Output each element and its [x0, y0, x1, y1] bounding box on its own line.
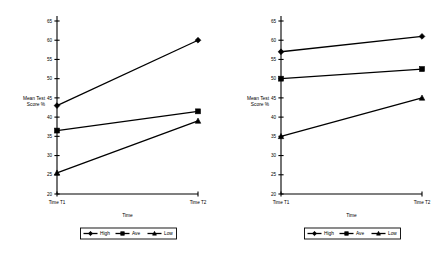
series-ave-marker-square: [279, 76, 284, 81]
y-axis-title-line2: Score %: [27, 102, 46, 107]
series-line-low: [57, 121, 198, 173]
y-axis-tick-label: 50: [47, 76, 53, 81]
two-panel-line-chart-figure: 20253035404550556065Time T1Time T2Mean T…: [0, 0, 448, 259]
y-axis-tick-label: 65: [271, 19, 277, 24]
series-high-marker-diamond: [419, 33, 425, 39]
y-axis-tick-label: 35: [271, 134, 277, 139]
y-axis-tick-label: 55: [47, 57, 53, 62]
x-axis-tick-label: Time T2: [414, 200, 431, 205]
y-axis-tick-label: 60: [271, 38, 277, 43]
series-line-ave: [281, 69, 422, 79]
series-high-marker-diamond: [278, 49, 284, 55]
legend-label-low: Low: [388, 231, 397, 236]
x-axis-title: Time: [346, 213, 357, 218]
x-axis-tick-label: Time T1: [49, 200, 66, 205]
legend-ave-legend-marker-square: [345, 232, 349, 236]
series-ave-marker-square: [196, 109, 201, 114]
series-low-marker-triangle: [419, 95, 425, 100]
x-axis-tick-label: Time T2: [190, 200, 207, 205]
chart-canvas-right: 20253035404550556065Time T1Time T2Mean T…: [224, 0, 448, 259]
y-axis-tick-label: 30: [47, 153, 53, 158]
series-line-low: [281, 98, 422, 136]
y-axis-tick-label: 65: [47, 19, 53, 24]
x-axis-tick-label: Time T1: [273, 200, 290, 205]
legend-ave-legend-marker-square: [121, 232, 125, 236]
y-axis-tick-label: 45: [271, 96, 277, 101]
y-axis-tick-label: 25: [47, 172, 53, 177]
series-line-high: [281, 36, 422, 51]
y-axis-tick-label: 60: [47, 38, 53, 43]
series-high-marker-diamond: [195, 37, 201, 43]
series-ave-marker-square: [55, 128, 60, 133]
chart-panel-right: 20253035404550556065Time T1Time T2Mean T…: [224, 0, 448, 259]
y-axis-tick-label: 20: [47, 192, 53, 197]
chart-canvas-left: 20253035404550556065Time T1Time T2Mean T…: [0, 0, 224, 259]
y-axis-tick-label: 35: [47, 134, 53, 139]
legend-label-low: Low: [164, 231, 173, 236]
legend-label-high: High: [324, 231, 334, 236]
legend-label-ave: Ave: [132, 231, 141, 236]
series-line-ave: [57, 111, 198, 130]
y-axis-tick-label: 25: [271, 172, 277, 177]
legend-label-ave: Ave: [356, 231, 365, 236]
y-axis-tick-label: 30: [271, 153, 277, 158]
y-axis-tick-label: 55: [271, 57, 277, 62]
series-ave-marker-square: [420, 67, 425, 72]
series-low-marker-triangle: [195, 118, 201, 123]
y-axis-title-line1: Mean Test: [247, 96, 270, 101]
series-high-marker-diamond: [54, 103, 60, 109]
y-axis-tick-label: 40: [271, 115, 277, 120]
y-axis-tick-label: 20: [271, 192, 277, 197]
chart-panel-left: 20253035404550556065Time T1Time T2Mean T…: [0, 0, 224, 259]
y-axis-title-line1: Mean Test: [23, 96, 46, 101]
series-line-high: [57, 40, 198, 105]
y-axis-tick-label: 45: [47, 96, 53, 101]
legend-label-high: High: [100, 231, 110, 236]
x-axis-title: Time: [122, 213, 133, 218]
y-axis-title-line2: Score %: [251, 102, 270, 107]
y-axis-tick-label: 40: [47, 115, 53, 120]
y-axis-tick-label: 50: [271, 76, 277, 81]
